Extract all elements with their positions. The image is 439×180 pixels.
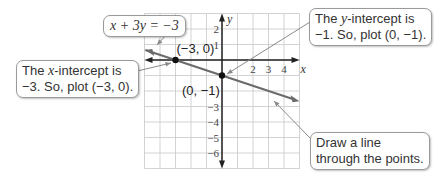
y-intercept-leader-arrowhead [227, 69, 233, 74]
y-tick-label: −3 [207, 101, 219, 113]
y-tick-label: −4 [207, 116, 219, 128]
draw-line-line1: Draw a line [316, 135, 424, 151]
y-tick-label: −5 [207, 132, 219, 144]
y-intercept-line2: −1. So, plot (0, −1). [315, 27, 426, 43]
x-intercept-callout: The x-intercept is −3. So, plot (−3, 0). [16, 60, 139, 98]
x-tick-label: 3 [266, 63, 272, 75]
data-point [172, 57, 178, 63]
x-axis-arrow-right [292, 57, 300, 63]
x-axis-arrow-left [145, 57, 153, 63]
y-tick-label: −6 [207, 147, 219, 159]
x-tick-label: 2 [250, 63, 256, 75]
y-intercept-line1: The y-intercept is [315, 11, 426, 27]
x-axis-label: x [300, 62, 307, 76]
y-axis-arrow-down [219, 161, 225, 169]
plot-line-arrow-left [145, 49, 154, 56]
y-tick-label: 2 [214, 23, 220, 35]
data-point [219, 72, 225, 78]
x-tick-label: 4 [281, 63, 287, 75]
x-intercept-line1: The x-intercept is [22, 63, 133, 79]
data-point-label: (0, −1) [182, 83, 220, 98]
equation-text: x + 3y = −3 [110, 18, 179, 33]
draw-line-callout: Draw a line through the points. [310, 132, 430, 170]
y-axis-arrow-up [219, 14, 225, 22]
x-intercept-line2: −3. So, plot (−3, 0). [22, 79, 133, 95]
x-intercept-leader-arrowhead [165, 62, 171, 67]
y-intercept-callout: The y-intercept is −1. So, plot (0, −1). [309, 8, 432, 46]
data-point-label: (−3, 0) [177, 41, 215, 56]
plot-line-arrow-right [291, 95, 300, 102]
y-axis-label: y [226, 12, 233, 26]
draw-line-line2: through the points. [316, 151, 424, 167]
equation-callout: x + 3y = −3 [103, 15, 186, 37]
